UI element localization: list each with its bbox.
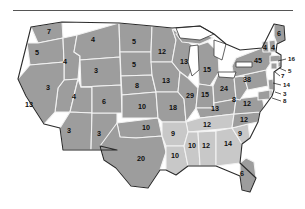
state-wy[interactable] [80,57,121,87]
label-vt: 4 [263,43,267,52]
label-or: 5 [35,48,39,57]
label-ms: 10 [171,151,179,160]
state-ar[interactable] [162,122,188,146]
label-pa: 38 [243,75,251,84]
label-de: 3 [283,90,287,97]
label-nm: 3 [97,129,101,138]
lake-erie [218,72,236,78]
label-ri: 5 [288,67,292,74]
lake-ontario [236,62,252,67]
label-ca: 13 [25,100,33,109]
label-wi: 13 [180,57,188,66]
label-ma: 16 [288,55,295,62]
label-in: 15 [201,90,209,99]
callout-value-labels: 16 5 7 14 3 8 [281,55,295,104]
label-wv: 8 [232,95,236,104]
label-co: 6 [102,97,106,106]
state-ct[interactable] [271,63,277,69]
label-mt: 4 [91,35,95,44]
label-al: 12 [202,141,210,150]
label-ia: 13 [162,76,170,85]
label-ar: 9 [171,129,175,138]
label-sc: 9 [238,129,242,138]
label-me: 6 [277,29,281,38]
leader-line-ri [279,68,286,71]
state-nj[interactable] [268,79,274,90]
label-nh: 4 [271,43,275,52]
state-sd[interactable] [120,52,152,76]
label-nc: 12 [240,115,248,124]
label-md: 8 [283,97,287,104]
label-nj: 14 [283,81,290,88]
label-nv: 3 [46,83,50,92]
leader-line-ct [275,72,280,76]
label-tn: 12 [203,120,211,129]
state-md[interactable] [258,90,270,100]
label-ga: 14 [224,139,232,148]
us-map-svg: 7 5 4 4 3 3 4 13 3 3 6 5 5 8 10 10 20 12… [0,0,305,209]
label-mo: 18 [169,103,177,112]
label-tx: 20 [137,154,145,163]
label-ok: 10 [142,123,150,132]
state-az[interactable] [60,112,92,150]
label-fl: 6 [240,169,244,178]
label-la: 10 [188,141,196,150]
state-mt[interactable] [74,23,120,60]
label-nd: 5 [132,37,136,46]
us-electoral-map-figure: 7 5 4 4 3 3 4 13 3 3 6 5 5 8 10 10 20 12… [0,0,305,209]
label-il: 29 [186,91,194,100]
label-ks: 10 [138,102,146,111]
label-oh: 24 [220,84,228,93]
state-ok[interactable] [117,118,162,138]
label-sd: 5 [132,60,136,69]
label-id: 4 [63,57,67,66]
leader-line-de [275,92,281,94]
label-mn: 12 [158,47,166,56]
label-ct: 7 [281,72,285,79]
label-ne: 8 [135,81,139,90]
state-mn[interactable] [151,26,176,62]
label-ky: 13 [211,104,219,113]
label-wy: 3 [94,66,98,75]
leader-line-md [272,98,281,101]
label-az: 3 [67,126,71,135]
label-ut: 4 [72,92,76,101]
label-wa: 7 [47,27,51,36]
state-or[interactable] [27,38,64,65]
label-va: 12 [243,99,251,108]
label-ny: 45 [254,56,262,65]
label-mi: 15 [203,65,211,74]
